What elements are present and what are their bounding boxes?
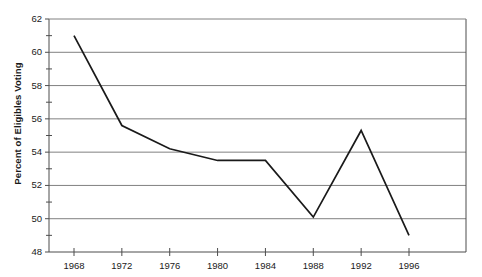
x-tick-label-1980: 1980: [198, 260, 238, 271]
x-tick-label-1976: 1976: [150, 260, 190, 271]
x-tick-label-1984: 1984: [245, 260, 285, 271]
x-tick-label-1992: 1992: [341, 260, 381, 271]
data-line-percent-of-eligibles-voting: [74, 36, 409, 236]
y-tick-label-52: 52: [16, 180, 42, 190]
gridlines-group: [49, 52, 466, 218]
data-series-group: [74, 36, 409, 236]
axis-frame: [49, 19, 466, 252]
x-tick-label-1968: 1968: [54, 260, 94, 271]
plot-surface: [0, 0, 482, 277]
y-tick-label-58: 58: [16, 81, 42, 91]
x-tick-label-1988: 1988: [293, 260, 333, 271]
y-tick-label-48: 48: [16, 247, 42, 257]
y-tick-label-62: 62: [16, 14, 42, 24]
y-tick-label-50: 50: [16, 214, 42, 224]
x-tick-label-1972: 1972: [102, 260, 142, 271]
line-chart: Percent of Eligibles Voting 485052545658…: [0, 0, 482, 277]
y-tick-label-60: 60: [16, 47, 42, 57]
x-tick-label-1996: 1996: [389, 260, 429, 271]
y-tick-label-56: 56: [16, 114, 42, 124]
y-tick-label-54: 54: [16, 147, 42, 157]
